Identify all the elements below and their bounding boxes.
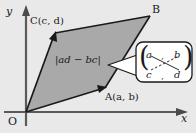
area-label: |ad − bc|: [55, 55, 101, 65]
vector-OC-arrowhead: [49, 31, 57, 42]
matrix-cell-a: a: [146, 49, 152, 60]
matrix-cell-d: d: [174, 69, 180, 80]
matrix-cell-b: b: [174, 49, 180, 60]
matrix-comma-top: ,: [161, 51, 164, 61]
y-axis-arrowhead: [22, 5, 30, 16]
determinant-area-diagram: y x O B C(c, d) A(a, b) |ad − bc| ( ) a …: [0, 0, 196, 133]
matrix-comma-bottom: ,: [161, 71, 164, 81]
point-a-label: A(a, b): [105, 92, 139, 102]
point-c-label: C(c, d): [30, 16, 64, 26]
matrix-cell-c: c: [146, 69, 152, 80]
point-b-label: B: [152, 4, 160, 15]
y-axis-label: y: [6, 6, 12, 17]
matrix-right-paren: ): [183, 43, 194, 70]
origin-label: O: [8, 116, 17, 127]
x-axis-label: x: [181, 113, 187, 124]
